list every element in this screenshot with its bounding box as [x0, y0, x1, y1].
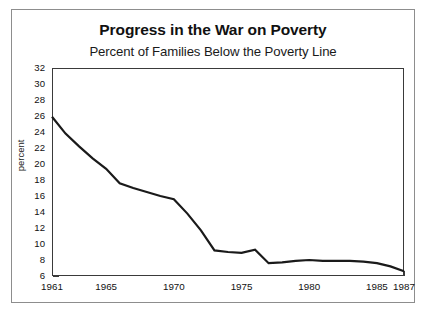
y-tick-label: 28: [23, 95, 45, 105]
x-tick-mark: [404, 271, 405, 276]
x-tick-label: 1970: [154, 281, 194, 292]
data-series-line: [52, 117, 404, 271]
y-tick-label: 6: [23, 271, 45, 281]
x-tick-label: 1961: [32, 281, 72, 292]
y-tick-label: 22: [23, 143, 45, 153]
y-tick-label: 18: [23, 175, 45, 185]
y-tick-label: 16: [23, 191, 45, 201]
y-tick-label: 32: [23, 63, 45, 73]
y-tick-label: 26: [23, 111, 45, 121]
y-tick-label: 24: [23, 127, 45, 137]
y-tick-mark: [53, 276, 59, 277]
x-tick-label: 1965: [86, 281, 126, 292]
y-tick-label: 30: [23, 79, 45, 89]
x-tick-label: 1987: [384, 281, 424, 292]
y-tick-label: 12: [23, 223, 45, 233]
plot-area: [52, 68, 404, 276]
y-tick-label: 8: [23, 255, 45, 265]
chart-subtitle: Percent of Families Below the Poverty Li…: [0, 44, 426, 59]
y-tick-label: 14: [23, 207, 45, 217]
x-tick-label: 1975: [222, 281, 262, 292]
y-tick-label: 10: [23, 239, 45, 249]
chart-page: Progress in the War on Poverty Percent o…: [0, 0, 426, 313]
y-tick-label: 20: [23, 159, 45, 169]
page-title: Progress in the War on Poverty: [0, 21, 426, 39]
x-tick-label: 1980: [289, 281, 329, 292]
